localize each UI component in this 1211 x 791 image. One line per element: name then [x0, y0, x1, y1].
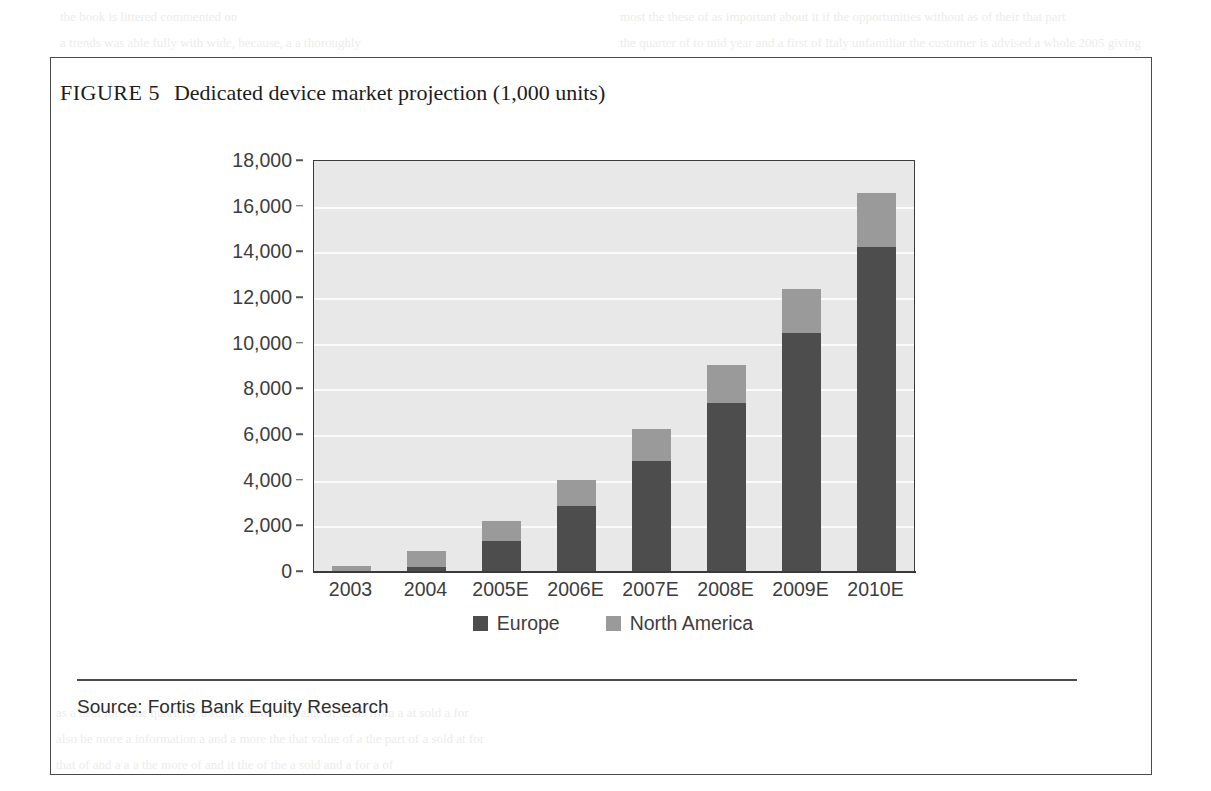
bar-segment-europe[interactable]	[557, 506, 596, 572]
bar-segment-north-america[interactable]	[557, 480, 596, 506]
bar-segment-europe[interactable]	[632, 461, 671, 572]
background-page-text: the book is littered commented on a tren…	[60, 4, 1180, 54]
bar-segment-north-america[interactable]	[632, 429, 671, 461]
y-tick-mark	[296, 159, 303, 161]
gridline	[314, 344, 914, 346]
y-tick-mark	[296, 251, 303, 253]
y-tick-mark	[296, 205, 303, 207]
bar-segment-north-america[interactable]	[857, 193, 896, 247]
x-tick-label-2007E: 2007E	[622, 578, 678, 601]
x-tick-label-2005E: 2005E	[472, 578, 528, 601]
gridline	[314, 207, 914, 209]
plot-area	[313, 160, 915, 572]
chart-legend: EuropeNorth America	[313, 612, 913, 635]
legend-item-north-america[interactable]: North America	[606, 612, 754, 635]
bar-segment-north-america[interactable]	[482, 521, 521, 542]
gridline	[314, 252, 914, 254]
bar-group-2006E[interactable]	[557, 480, 596, 572]
legend-item-europe[interactable]: Europe	[473, 612, 560, 635]
y-tick-mark	[296, 342, 303, 344]
bar-group-2008E[interactable]	[707, 365, 746, 572]
bar-segment-north-america[interactable]	[782, 289, 821, 334]
y-tick-label: 12,000	[232, 286, 292, 309]
y-tick-mark	[296, 388, 303, 390]
y-tick-label: 4,000	[243, 468, 292, 491]
y-tick-mark	[296, 570, 303, 572]
figure-title-text: Dedicated device market projection (1,00…	[174, 80, 605, 105]
bar-group-2004[interactable]	[407, 551, 446, 572]
y-tick-label: 8,000	[243, 377, 292, 400]
y-tick-label: 6,000	[243, 423, 292, 446]
gridline	[314, 526, 914, 528]
bar-segment-europe[interactable]	[707, 403, 746, 572]
source-caption: Source: Fortis Bank Equity Research	[77, 696, 389, 718]
bar-segment-europe[interactable]	[857, 247, 896, 572]
legend-label: North America	[630, 612, 754, 635]
y-axis: 18,00016,00014,00012,00010,0008,0006,000…	[196, 150, 306, 561]
y-tick-label: 16,000	[232, 194, 292, 217]
chart: 18,00016,00014,00012,00010,0008,0006,000…	[196, 150, 926, 650]
gridline	[314, 481, 914, 483]
y-tick-label: 18,000	[232, 149, 292, 172]
bar-group-2007E[interactable]	[632, 429, 671, 572]
gridline	[314, 389, 914, 391]
gridline	[314, 435, 914, 437]
source-divider	[77, 679, 1077, 681]
bar-segment-europe[interactable]	[482, 541, 521, 572]
background-page-text-right: most the these of as important about it …	[620, 4, 1200, 54]
bar-segment-north-america[interactable]	[407, 551, 446, 567]
y-tick-label: 2,000	[243, 514, 292, 537]
gridline	[314, 298, 914, 300]
x-axis: 200320042005E2006E2007E2008E2009E2010E	[313, 578, 913, 608]
x-tick-label-2004: 2004	[404, 578, 447, 601]
bar-segment-north-america[interactable]	[707, 365, 746, 403]
legend-label: Europe	[497, 612, 560, 635]
y-tick-mark	[296, 479, 303, 481]
x-axis-line	[313, 571, 916, 573]
y-tick-mark	[296, 433, 303, 435]
figure-title: FIGURE 5Dedicated device market projecti…	[60, 80, 605, 106]
y-tick-label: 14,000	[232, 240, 292, 263]
x-tick-label-2006E: 2006E	[547, 578, 603, 601]
legend-swatch-icon	[606, 616, 621, 631]
x-tick-label-2008E: 2008E	[697, 578, 753, 601]
x-tick-label-2010E: 2010E	[847, 578, 903, 601]
y-tick-mark	[296, 525, 303, 527]
x-tick-label-2009E: 2009E	[772, 578, 828, 601]
legend-swatch-icon	[473, 616, 488, 631]
bar-group-2005E[interactable]	[482, 521, 521, 572]
bar-group-2010E[interactable]	[857, 193, 896, 572]
y-tick-label: 10,000	[232, 331, 292, 354]
x-tick-label-2003: 2003	[329, 578, 372, 601]
bar-segment-europe[interactable]	[782, 333, 821, 572]
figure-number: FIGURE 5	[60, 80, 160, 105]
y-tick-label: 0	[281, 560, 292, 583]
bar-group-2009E[interactable]	[782, 289, 821, 572]
y-tick-mark	[296, 296, 303, 298]
